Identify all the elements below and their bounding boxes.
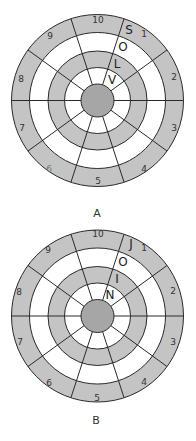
sector-number-1: 1 xyxy=(141,243,147,253)
letter-ring-3: O xyxy=(118,40,127,54)
sector-number-9: 9 xyxy=(45,245,51,255)
diagram-caption-a: A xyxy=(93,207,101,220)
sector-number-4: 4 xyxy=(141,377,147,387)
sector-number-8: 8 xyxy=(18,74,24,84)
sector-number-4: 4 xyxy=(141,164,147,174)
sector-number-10: 10 xyxy=(92,15,104,25)
sector-number-2: 2 xyxy=(171,72,177,82)
sector-number-5: 5 xyxy=(94,393,100,403)
sector-number-1: 1 xyxy=(141,29,147,39)
sector-number-7: 7 xyxy=(17,337,23,347)
sector-number-3: 3 xyxy=(170,337,176,347)
letter-ring-1: V xyxy=(108,73,117,87)
letter-ring-2: L xyxy=(114,57,121,71)
sector-number-6: 6 xyxy=(46,164,52,174)
sector-number-7: 7 xyxy=(19,123,25,133)
sector-number-10: 10 xyxy=(92,229,104,239)
dartboard-diagrams: 10 1 2 3 4 5 6 7 8 9 S O L V A 10 1 2 3 … xyxy=(0,0,196,441)
diagram-caption-b: B xyxy=(92,414,100,427)
center-hub xyxy=(81,84,114,117)
sector-number-2: 2 xyxy=(170,286,176,296)
diagram-b: 10 1 2 3 4 5 6 7 8 9 J O I N B xyxy=(12,229,184,427)
letter-outer-ring: S xyxy=(125,23,133,37)
center-hub xyxy=(81,300,114,333)
sector-number-8: 8 xyxy=(16,287,22,297)
letter-ring-1: N xyxy=(106,288,115,302)
diagram-a: 10 1 2 3 4 5 6 7 8 9 S O L V A xyxy=(12,15,184,220)
letter-ring-3: O xyxy=(118,255,127,269)
sector-number-3: 3 xyxy=(171,123,177,133)
sector-number-9: 9 xyxy=(47,31,53,41)
letter-ring-2: I xyxy=(115,272,119,286)
sector-number-6: 6 xyxy=(46,378,52,388)
letter-outer-ring: J xyxy=(128,237,133,251)
sector-number-5: 5 xyxy=(95,176,101,186)
